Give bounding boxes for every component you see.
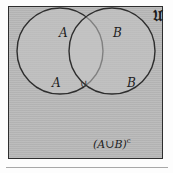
complement-superscript: c [127, 137, 131, 145]
set-b-region-label: B [127, 77, 136, 89]
universal-set-label: 𝔘 [153, 9, 163, 24]
bottom-divider [6, 167, 168, 168]
set-a-region-label: A [52, 77, 61, 89]
intersection-region-label: ∪ [80, 78, 88, 89]
venn-diagram-figure: 𝔘 A B A B ∪ (A∪B)c [0, 0, 173, 173]
complement-region-label: (A∪B)c [93, 138, 131, 150]
complement-expression: (A∪B) [93, 138, 127, 151]
set-b-outer-label: B [113, 27, 122, 39]
set-a-outer-label: A [59, 27, 68, 39]
